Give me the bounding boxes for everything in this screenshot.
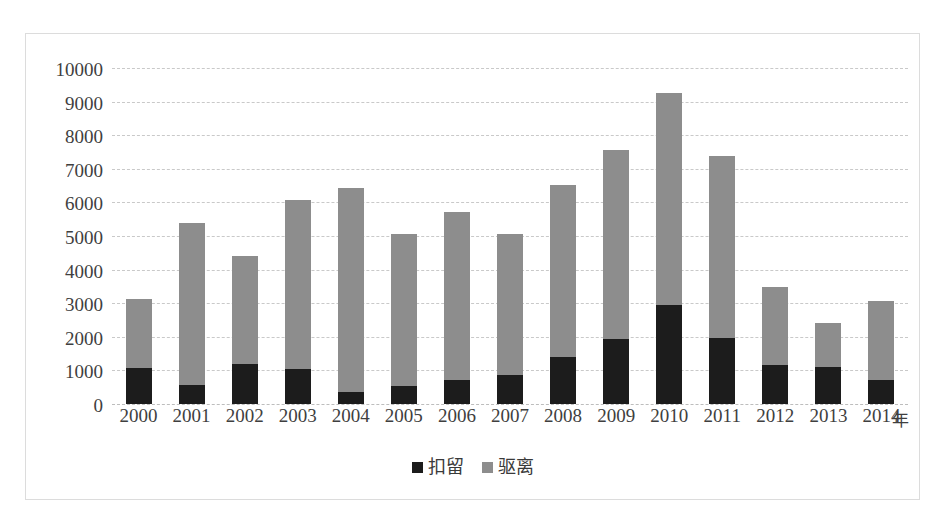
bar-segment-expel[interactable] <box>497 234 523 375</box>
bar-stack[interactable] <box>709 156 735 404</box>
y-axis-tick-label: 6000 <box>65 194 103 213</box>
bar-segment-expel[interactable] <box>179 223 205 385</box>
bar-segment-detain[interactable] <box>232 364 258 404</box>
bar-stack[interactable] <box>285 200 311 404</box>
legend-label-expel: 驱离 <box>498 458 534 476</box>
legend-label-detain: 扣留 <box>428 458 464 476</box>
bar-segment-detain[interactable] <box>868 380 894 404</box>
bar-segment-detain[interactable] <box>179 385 205 404</box>
legend-swatch-detain-icon <box>412 462 423 473</box>
legend-swatch-expel-icon <box>482 462 493 473</box>
bar-segment-detain[interactable] <box>762 365 788 404</box>
x-axis-tick-label: 2001 <box>173 406 211 425</box>
bar-segment-expel[interactable] <box>444 212 470 380</box>
bar-segment-expel[interactable] <box>126 299 152 368</box>
plot-area: 0100020003000400050006000700080009000100… <box>112 68 908 404</box>
x-axis-tick-label: 2007 <box>491 406 529 425</box>
bar-segment-detain[interactable] <box>497 375 523 404</box>
bar-stack[interactable] <box>868 301 894 404</box>
y-axis-tick-label: 4000 <box>65 261 103 280</box>
bar-stack[interactable] <box>603 150 629 404</box>
y-axis-tick-label: 5000 <box>65 228 103 247</box>
bar-stack[interactable] <box>762 287 788 404</box>
bar-segment-detain[interactable] <box>815 367 841 404</box>
y-axis-tick-label: 1000 <box>65 362 103 381</box>
bar-segment-detain[interactable] <box>656 305 682 404</box>
y-axis-tick-label: 9000 <box>65 93 103 112</box>
x-axis-tick-label: 2012 <box>756 406 794 425</box>
x-axis-tick-label: 2003 <box>279 406 317 425</box>
chart-legend: 扣留 驱离 <box>26 458 919 476</box>
bar-stack[interactable] <box>550 185 576 404</box>
bar-segment-expel[interactable] <box>391 234 417 386</box>
chart-frame: 0100020003000400050006000700080009000100… <box>25 33 920 500</box>
bar-stack[interactable] <box>497 234 523 404</box>
bar-segment-detain[interactable] <box>391 386 417 404</box>
bar-segment-expel[interactable] <box>550 185 576 357</box>
x-axis-tick-label: 2002 <box>226 406 264 425</box>
bar-segment-detain[interactable] <box>550 357 576 404</box>
bar-stack[interactable] <box>391 234 417 404</box>
bar-segment-expel[interactable] <box>762 287 788 365</box>
bar-segment-expel[interactable] <box>868 301 894 380</box>
y-axis-tick-label: 3000 <box>65 295 103 314</box>
bar-stack[interactable] <box>444 212 470 404</box>
bar-segment-detain[interactable] <box>709 338 735 404</box>
legend-item-expel[interactable]: 驱离 <box>482 458 534 476</box>
x-axis-tick-label: 2011 <box>704 406 741 425</box>
x-axis-unit-label: 年 <box>892 412 909 429</box>
bar-segment-detain[interactable] <box>603 339 629 404</box>
x-axis-tick-label: 2008 <box>544 406 582 425</box>
x-axis-tick-label: 2006 <box>438 406 476 425</box>
y-axis-tick-label: 10000 <box>56 60 104 79</box>
bar-segment-expel[interactable] <box>709 156 735 338</box>
y-axis-tick-label: 8000 <box>65 127 103 146</box>
bar-stack[interactable] <box>179 223 205 404</box>
bar-stack[interactable] <box>126 299 152 404</box>
bar-segment-detain[interactable] <box>126 368 152 404</box>
bar-stack[interactable] <box>338 188 364 404</box>
x-axis-tick-label: 2013 <box>809 406 847 425</box>
y-axis-tick-label: 2000 <box>65 328 103 347</box>
bar-segment-detain[interactable] <box>444 380 470 404</box>
y-axis-tick-label: 0 <box>94 396 104 415</box>
legend-item-detain[interactable]: 扣留 <box>412 458 464 476</box>
bar-segment-expel[interactable] <box>603 150 629 339</box>
x-axis-tick-label: 2010 <box>650 406 688 425</box>
bar-segment-expel[interactable] <box>815 323 841 367</box>
bar-segment-expel[interactable] <box>285 200 311 369</box>
bar-series-group <box>112 68 908 404</box>
x-axis: 2000200120022003200420052006200720082009… <box>112 406 908 436</box>
bar-stack[interactable] <box>815 323 841 404</box>
x-axis-tick-label: 2009 <box>597 406 635 425</box>
bar-stack[interactable] <box>232 256 258 405</box>
x-axis-tick-label: 2000 <box>120 406 158 425</box>
bar-segment-expel[interactable] <box>656 93 682 305</box>
bar-stack[interactable] <box>656 93 682 404</box>
bar-segment-detain[interactable] <box>285 369 311 404</box>
bar-segment-expel[interactable] <box>338 188 364 392</box>
x-axis-tick-label: 2004 <box>332 406 370 425</box>
x-axis-tick-label: 2005 <box>385 406 423 425</box>
y-axis-tick-label: 7000 <box>65 160 103 179</box>
bar-segment-detain[interactable] <box>338 392 364 404</box>
bar-segment-expel[interactable] <box>232 256 258 364</box>
